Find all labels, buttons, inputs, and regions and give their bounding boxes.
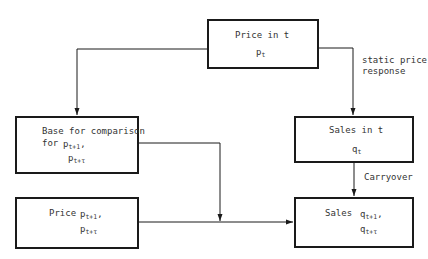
node-symbol-1: pt+1, bbox=[80, 209, 103, 222]
edge-label-response: response bbox=[362, 66, 405, 77]
node-label: Base for comparison bbox=[42, 126, 145, 137]
node-sales-future: Sales qt+1, qt+τ bbox=[294, 197, 414, 248]
node-symbol-1: qt+1, bbox=[360, 209, 383, 222]
node-label: Sales in t bbox=[329, 125, 383, 136]
edge-label-static-price: static price bbox=[362, 55, 427, 66]
edge-label-carryover: Carryover bbox=[364, 172, 413, 183]
node-base-for-comparison: Base for comparison for pt+1, pt+τ bbox=[15, 116, 139, 174]
edge-static-price-response bbox=[318, 48, 353, 115]
node-symbol: qt bbox=[352, 144, 361, 157]
node-symbol-1: pt+1, bbox=[63, 139, 86, 152]
node-symbol: pt bbox=[256, 47, 265, 60]
node-label-for: for bbox=[42, 138, 58, 149]
edge-base-to-junction bbox=[138, 143, 220, 221]
node-label: Price in t bbox=[235, 30, 289, 41]
node-label: Sales bbox=[325, 208, 352, 219]
node-label: Price bbox=[49, 208, 76, 219]
node-symbol-2: pt+τ bbox=[68, 153, 85, 166]
node-price-in-t: Price in t pt bbox=[207, 19, 319, 69]
edge-price-to-base bbox=[77, 49, 207, 115]
node-price-future: Price pt+1, pt+τ bbox=[15, 197, 139, 249]
node-symbol-2: qt+τ bbox=[360, 224, 377, 237]
node-sales-in-t: Sales in t qt bbox=[294, 116, 414, 163]
node-symbol-2: pt+τ bbox=[80, 224, 97, 237]
